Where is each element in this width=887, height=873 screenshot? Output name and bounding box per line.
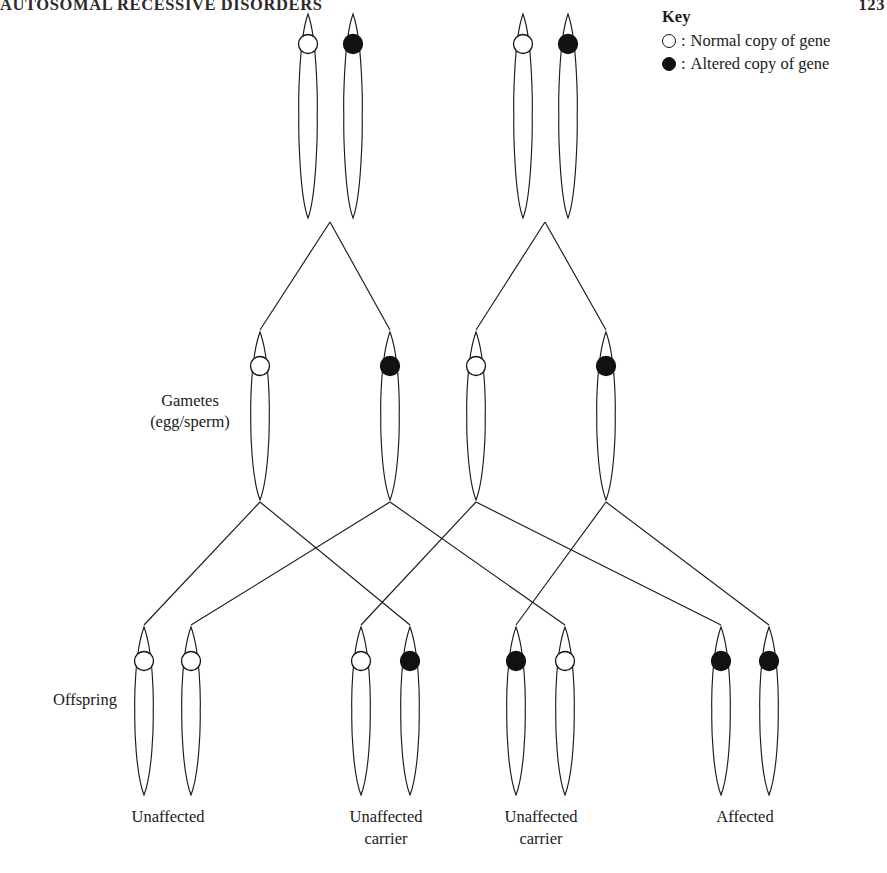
figure-canvas: AUTOSOMAL RECESSIVE DISORDERS 123 Key : … [0,0,887,873]
caption-offspring-1: Unaffected [88,806,248,828]
connector-gamete-offspring-7 [516,502,606,625]
filled-circle-icon [712,652,731,671]
row-label-offspring: Offspring [20,689,150,710]
filled-circle-icon [559,35,578,54]
connector-gamete-offspring-3 [191,502,390,625]
connector-parent-gamete-4 [545,222,606,330]
connector-gamete-offspring-1 [144,502,260,625]
caption-line1: Unaffected [350,807,423,826]
row-label-gametes: Gametes (egg/sperm) [115,390,265,432]
filled-circle-icon [760,652,779,671]
filled-circle-icon [507,652,526,671]
key-entry-altered: : Altered copy of gene [662,52,887,75]
open-circle-icon [182,652,201,671]
key-label-normal: Normal copy of gene [691,29,831,52]
connector-gamete-offspring-8 [606,502,769,625]
filled-circle-icon [401,652,420,671]
key-legend: Key : Normal copy of gene : Altered copy… [662,7,887,75]
filled-circle-icon [344,35,363,54]
open-circle-icon [352,652,371,671]
filled-circle-icon [597,357,616,376]
caption-offspring-2: Unaffectedcarrier [306,806,466,850]
open-circle-icon [135,652,154,671]
connector-parent-gamete-3 [476,222,545,330]
open-circle-icon [299,35,318,54]
open-circle-icon [251,357,270,376]
caption-line1: Unaffected [132,807,205,826]
filled-circle-icon [381,357,400,376]
connector-gamete-offspring-5 [361,502,476,625]
caption-offspring-4: Affected [665,806,825,828]
row-label-gametes-line2: (egg/sperm) [150,412,230,431]
caption-line2: carrier [306,828,466,850]
key-separator-normal: : [681,29,686,52]
key-label-altered: Altered copy of gene [691,52,830,75]
key-separator-altered: : [681,52,686,75]
caption-line1: Unaffected [505,807,578,826]
open-circle-icon [662,34,676,48]
caption-offspring-3: Unaffectedcarrier [461,806,621,850]
connector-gamete-offspring-4 [390,502,565,625]
caption-line1: Affected [716,807,773,826]
row-label-gametes-line1: Gametes [161,391,219,410]
connector-parent-gamete-2 [330,222,390,330]
gene-locus-markers [135,35,779,671]
connector-gamete-offspring-2 [260,502,410,625]
filled-circle-icon [662,57,676,71]
open-circle-icon [467,357,486,376]
key-entry-normal: : Normal copy of gene [662,29,887,52]
key-title: Key [662,7,887,27]
caption-line2: carrier [461,828,621,850]
open-circle-icon [556,652,575,671]
inheritance-diagram-art [0,0,887,873]
open-circle-icon [514,35,533,54]
connector-parent-gamete-1 [260,222,330,330]
connector-gamete-offspring-6 [476,502,721,625]
